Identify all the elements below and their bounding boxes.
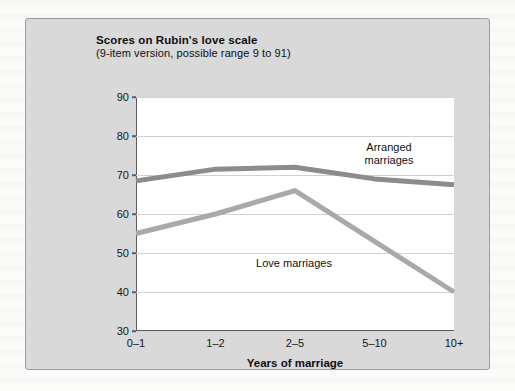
x-tick-label: 10+ <box>445 337 464 349</box>
x-tick-label: 1–2 <box>206 337 224 349</box>
x-tick-label: 5–10 <box>362 337 386 349</box>
chart-subtitle: (9-item version, possible range 9 to 91) <box>96 47 291 60</box>
plot-wrapper: 30405060708090 0–11–22–55–1010+ Arranged… <box>136 97 454 331</box>
y-tick-label: 60 <box>117 208 129 220</box>
chart-title-block: Scores on Rubin's love scale (9-item ver… <box>96 33 291 60</box>
y-tick-label: 80 <box>117 130 129 142</box>
page-title: Scores on Rubin's love scale <box>96 33 291 47</box>
x-axis-title: Years of marriage <box>247 357 344 369</box>
chart-card: Scores on Rubin's love scale (9-item ver… <box>25 18 490 370</box>
x-tick-label: 2–5 <box>286 337 304 349</box>
line-series <box>136 191 454 292</box>
line-series <box>136 167 454 185</box>
y-tick-label: 50 <box>117 247 129 259</box>
y-tick-label: 30 <box>117 325 129 337</box>
y-tick-label: 40 <box>117 286 129 298</box>
x-tick-label: 0–1 <box>127 337 145 349</box>
y-tick-label: 70 <box>117 169 129 181</box>
y-tick-label: 90 <box>117 91 129 103</box>
series-lines <box>136 97 454 331</box>
